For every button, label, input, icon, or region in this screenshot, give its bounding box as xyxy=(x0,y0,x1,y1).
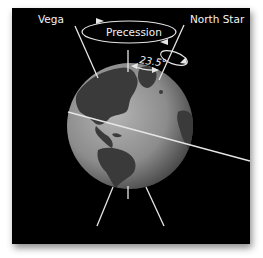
precession-label: Precession xyxy=(106,26,162,38)
vega-label: Vega xyxy=(38,13,64,25)
lower-cone-line-left xyxy=(97,187,113,226)
iceland xyxy=(159,90,163,94)
north-star-label: North Star xyxy=(190,13,245,25)
earth-globe xyxy=(67,63,250,189)
rotation-arrow-icon xyxy=(180,57,187,64)
lower-cone-line-right xyxy=(146,187,164,226)
precession-diagram: Vega North Star Precession 23.5° xyxy=(0,0,263,258)
vega-axis-line xyxy=(75,26,98,78)
north-star-axis-line xyxy=(159,25,184,80)
